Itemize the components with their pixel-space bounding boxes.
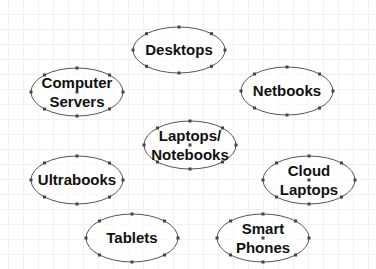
node-label: Tablets [106, 229, 157, 246]
resize-handle[interactable] [294, 220, 297, 223]
resize-handle[interactable] [189, 168, 192, 171]
node-laptops-notebooks[interactable]: Laptops/Notebooks [143, 120, 238, 171]
resize-handle[interactable] [224, 49, 227, 52]
resize-handle[interactable] [122, 179, 125, 182]
resize-handle[interactable] [131, 261, 134, 264]
node-label: Notebooks [151, 146, 229, 163]
resize-handle[interactable] [131, 213, 134, 216]
resize-handle[interactable] [145, 65, 148, 68]
resize-handle[interactable] [235, 144, 238, 147]
resize-handle[interactable] [240, 90, 243, 93]
resize-handle[interactable] [178, 26, 181, 29]
resize-handle[interactable] [177, 237, 180, 240]
resize-handle[interactable] [76, 115, 79, 118]
resize-handle[interactable] [286, 66, 289, 69]
node-tablets[interactable]: Tablets [85, 213, 180, 264]
node-smart-phones[interactable]: SmartPhones [216, 213, 311, 264]
resize-handle[interactable] [216, 237, 219, 240]
resize-handle[interactable] [275, 196, 278, 199]
resize-handle[interactable] [30, 179, 33, 182]
resize-handle[interactable] [229, 254, 232, 257]
node-label: Netbooks [253, 82, 321, 99]
resize-handle[interactable] [132, 49, 135, 52]
resize-handle[interactable] [122, 91, 125, 94]
node-label: Ultrabooks [38, 171, 116, 188]
node-ultrabooks[interactable]: Ultrabooks [30, 155, 125, 206]
node-label: Phones [236, 239, 290, 256]
node-netbooks[interactable]: Netbooks [240, 66, 335, 117]
node-cloud-laptops[interactable]: CloudLaptops [262, 155, 357, 206]
resize-handle[interactable] [340, 196, 343, 199]
node-label: Smart [242, 220, 285, 237]
resize-handle[interactable] [262, 179, 265, 182]
resize-handle[interactable] [308, 203, 311, 206]
resize-handle[interactable] [163, 220, 166, 223]
resize-handle[interactable] [354, 179, 357, 182]
node-label: Servers [49, 93, 104, 110]
resize-handle[interactable] [178, 72, 181, 75]
node-computer-servers[interactable]: ComputerServers [30, 67, 125, 118]
node-label: Laptops [280, 181, 338, 198]
resize-handle[interactable] [253, 107, 256, 110]
resize-handle[interactable] [43, 162, 46, 165]
resize-handle[interactable] [253, 73, 256, 76]
center-marker [76, 91, 79, 94]
resize-handle[interactable] [308, 237, 311, 240]
diagram-canvas[interactable]: DesktopsComputerServersNetbooksLaptops/N… [0, 0, 376, 269]
resize-handle[interactable] [145, 32, 148, 35]
resize-handle[interactable] [108, 162, 111, 165]
node-desktops[interactable]: Desktops [132, 26, 227, 75]
resize-handle[interactable] [163, 254, 166, 257]
resize-handle[interactable] [143, 144, 146, 147]
resize-handle[interactable] [76, 203, 79, 206]
resize-handle[interactable] [98, 220, 101, 223]
resize-handle[interactable] [318, 107, 321, 110]
node-label: Cloud [288, 162, 331, 179]
resize-handle[interactable] [210, 32, 213, 35]
resize-handle[interactable] [262, 213, 265, 216]
resize-handle[interactable] [318, 73, 321, 76]
resize-handle[interactable] [221, 127, 224, 130]
resize-handle[interactable] [308, 155, 311, 158]
resize-handle[interactable] [210, 65, 213, 68]
resize-handle[interactable] [98, 254, 101, 257]
resize-handle[interactable] [108, 108, 111, 111]
resize-handle[interactable] [294, 254, 297, 257]
resize-handle[interactable] [76, 67, 79, 70]
resize-handle[interactable] [43, 196, 46, 199]
resize-handle[interactable] [85, 237, 88, 240]
resize-handle[interactable] [43, 108, 46, 111]
resize-handle[interactable] [262, 261, 265, 264]
center-marker [308, 179, 311, 182]
resize-handle[interactable] [332, 90, 335, 93]
node-label: Desktops [145, 41, 213, 58]
resize-handle[interactable] [108, 196, 111, 199]
resize-handle[interactable] [340, 162, 343, 165]
resize-handle[interactable] [275, 162, 278, 165]
node-label: Laptops/ [159, 127, 222, 144]
center-marker [189, 144, 192, 147]
resize-handle[interactable] [76, 155, 79, 158]
diagram-svg: DesktopsComputerServersNetbooksLaptops/N… [0, 0, 376, 269]
center-marker [262, 237, 265, 240]
resize-handle[interactable] [189, 120, 192, 123]
node-label: Computer [42, 74, 113, 91]
resize-handle[interactable] [286, 114, 289, 117]
resize-handle[interactable] [30, 91, 33, 94]
resize-handle[interactable] [229, 220, 232, 223]
